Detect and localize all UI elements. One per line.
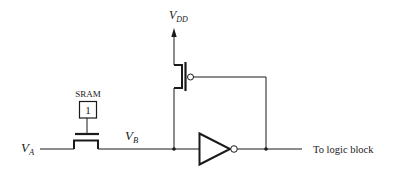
label-vdd: VDD bbox=[169, 8, 188, 24]
vdd-arrow-icon bbox=[171, 28, 176, 37]
pmos-gate-bubble bbox=[188, 74, 194, 80]
label-output: To logic block bbox=[313, 144, 374, 155]
keeper-pmos bbox=[174, 62, 266, 91]
inverter bbox=[200, 134, 238, 165]
label-vb: VB bbox=[125, 128, 138, 145]
node-b-junction-dot bbox=[172, 147, 176, 151]
pass-transistor bbox=[74, 118, 99, 149]
inverter-output-bubble bbox=[231, 146, 238, 153]
circuit-diagram: VA VB VDD SRAM 1 To logic block bbox=[0, 0, 396, 177]
label-sram: SRAM bbox=[75, 89, 101, 99]
output-junction-dot bbox=[264, 147, 268, 151]
sram-value: 1 bbox=[85, 104, 91, 116]
label-va: VA bbox=[21, 140, 35, 157]
